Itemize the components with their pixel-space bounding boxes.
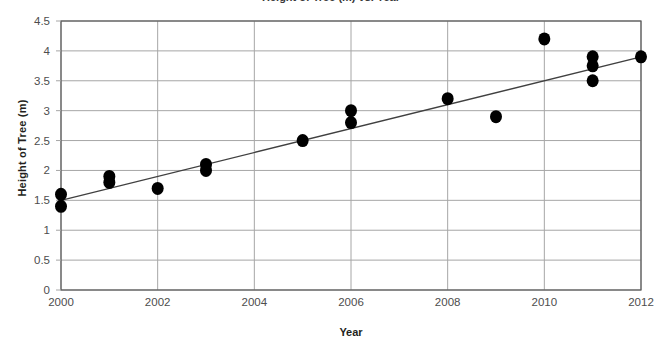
- chart-figure: Height of Tree (m) vs. Year Height of Tr…: [0, 0, 662, 348]
- data-point: [587, 74, 599, 87]
- data-point: [587, 50, 599, 63]
- data-point: [345, 116, 357, 129]
- data-point: [297, 134, 309, 147]
- data-point: [490, 110, 502, 123]
- data-point: [200, 158, 212, 171]
- axis-ticks: [56, 21, 61, 290]
- data-point: [538, 32, 550, 45]
- data-point: [635, 50, 647, 63]
- data-point: [345, 104, 357, 117]
- data-point: [55, 188, 67, 201]
- data-point: [55, 200, 67, 213]
- data-point: [152, 182, 164, 195]
- data-point: [442, 92, 454, 105]
- plot-area: [0, 0, 662, 348]
- data-point: [103, 170, 115, 183]
- gridlines: [61, 21, 641, 290]
